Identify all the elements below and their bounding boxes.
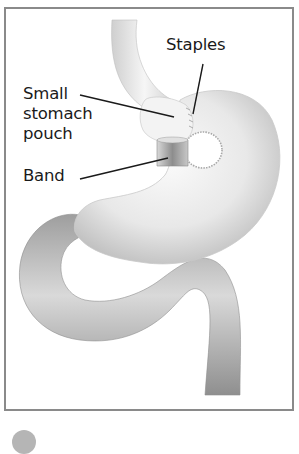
label-small-stomach-pouch: Small stomach pouch — [23, 84, 113, 144]
label-band: Band — [23, 166, 65, 186]
band-leader-line — [80, 158, 168, 179]
gastric-band — [157, 137, 188, 166]
label-staples: Staples — [166, 35, 225, 55]
label-pouch-line-3: pouch — [23, 124, 113, 144]
label-pouch-line-1: Small — [23, 84, 113, 104]
number-badge-icon — [12, 430, 36, 454]
label-pouch-line-2: stomach — [23, 104, 113, 124]
